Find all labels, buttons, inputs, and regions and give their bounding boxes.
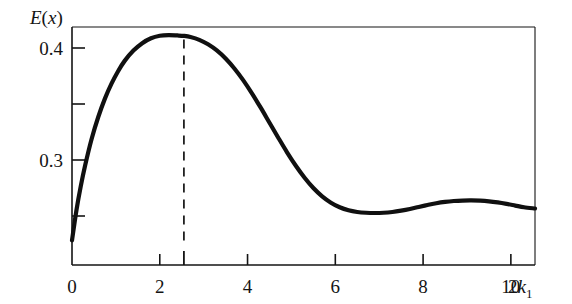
x-tick-label-1: 2 (155, 276, 165, 297)
x-tick-label-2: 4 (243, 276, 253, 297)
y-tick-label-0: 0.3 (39, 150, 63, 171)
chart-canvas: 0.30.4 0246810 E(x) 2k1 (0, 0, 572, 304)
x-tick-label-0: 0 (67, 276, 77, 297)
y-tick-label-1: 0.4 (39, 38, 63, 59)
x-tick-label-4: 8 (418, 276, 428, 297)
figure-container: 0.30.4 0246810 E(x) 2k1 (0, 0, 572, 304)
x-tick-label-3: 6 (331, 276, 341, 297)
y-axis-title: E(x) (29, 7, 63, 29)
